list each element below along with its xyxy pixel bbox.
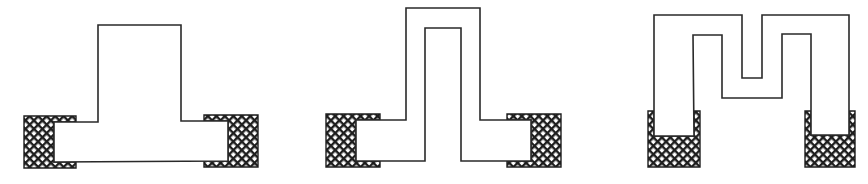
figure-t-shape	[24, 25, 258, 168]
figure-loop-shape	[326, 8, 561, 167]
trace-body	[654, 15, 849, 136]
figure-m-shape	[648, 15, 855, 167]
trace-body	[54, 25, 228, 162]
diagram-canvas	[0, 0, 868, 184]
trace-body	[356, 8, 531, 161]
